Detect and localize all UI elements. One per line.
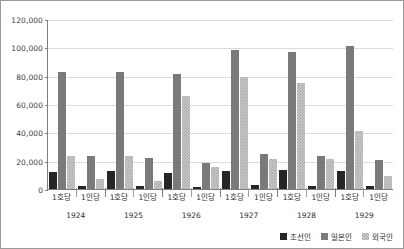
y-axis-labels: 120,000100,00080,00060,00040,00020,0000	[1, 20, 43, 190]
y-axis-tick-label: 40,000	[1, 129, 43, 138]
bar	[375, 160, 383, 189]
y-axis-tick-label: 0	[1, 186, 43, 195]
x-axis-sub-label: 1인당	[249, 191, 278, 205]
bar	[49, 172, 57, 189]
x-axis-sub-label: 1호당	[278, 191, 307, 205]
bar	[260, 154, 268, 189]
legend-label: 일본인	[331, 231, 352, 242]
x-axis-year-block: 1호당1인당1927	[220, 191, 278, 223]
legend-label: 외국인	[372, 231, 393, 242]
bar	[136, 186, 144, 189]
x-axis-year-block: 1호당1인당1929	[335, 191, 393, 223]
legend-item[interactable]: 외국인	[362, 231, 393, 242]
year-group	[163, 20, 221, 189]
bar	[96, 179, 104, 189]
bar	[337, 171, 345, 189]
x-axis-sub-label: 1인당	[134, 191, 163, 205]
bar	[87, 156, 95, 189]
bar	[78, 186, 86, 189]
bar	[211, 167, 219, 189]
x-axis-sub-row: 1호당1인당	[220, 191, 278, 205]
sub-group	[307, 20, 336, 189]
x-axis-sub-label: 1인당	[76, 191, 105, 205]
bar	[116, 72, 124, 189]
sub-group	[163, 20, 192, 189]
x-axis-year-label: 1926	[162, 205, 220, 223]
x-axis-year-label: 1929	[335, 205, 393, 223]
bar	[355, 131, 363, 189]
x-axis-year-label: 1928	[278, 205, 336, 223]
x-axis-sub-row: 1호당1인당	[335, 191, 393, 205]
legend-label: 조선인	[290, 231, 311, 242]
x-axis-sub-label: 1인당	[307, 191, 336, 205]
bar	[288, 52, 296, 189]
bar	[297, 83, 305, 189]
y-axis-tick-label: 100,000	[1, 44, 43, 53]
bar	[164, 173, 172, 189]
x-axis-year-block: 1호당1인당1924	[47, 191, 105, 223]
bar	[384, 176, 392, 189]
legend-swatch-icon	[321, 233, 328, 240]
year-group	[106, 20, 164, 189]
x-axis-sub-row: 1호당1인당	[278, 191, 336, 205]
y-axis-tick-label: 80,000	[1, 72, 43, 81]
x-axis-year-block: 1호당1인당1925	[105, 191, 163, 223]
year-group	[278, 20, 336, 189]
x-axis-year-block: 1호당1인당1928	[278, 191, 336, 223]
plot-area	[47, 20, 393, 190]
bar	[308, 186, 316, 189]
x-axis-sub-label: 1호당	[105, 191, 134, 205]
legend-item[interactable]: 일본인	[321, 231, 352, 242]
bar	[173, 74, 181, 189]
x-axis-year-label: 1927	[220, 205, 278, 223]
y-axis-tick-label: 60,000	[1, 101, 43, 110]
bar	[67, 156, 75, 189]
bar	[269, 159, 277, 189]
bar	[145, 158, 153, 189]
chart-container: 120,000100,00080,00060,00040,00020,0000 …	[0, 0, 404, 249]
x-axis-sub-label: 1인당	[364, 191, 393, 205]
bar	[125, 156, 133, 189]
x-axis-sub-label: 1호당	[162, 191, 191, 205]
bar	[107, 171, 115, 189]
x-axis-sub-row: 1호당1인당	[47, 191, 105, 205]
bar	[193, 187, 201, 189]
bar	[251, 185, 259, 189]
chart-legend: 조선인일본인외국인	[1, 231, 393, 242]
sub-group	[278, 20, 307, 189]
x-axis-sub-label: 1호당	[335, 191, 364, 205]
sub-group	[364, 20, 393, 189]
x-axis-sub-row: 1호당1인당	[105, 191, 163, 205]
sub-group	[249, 20, 278, 189]
x-axis-sub-label: 1인당	[191, 191, 220, 205]
legend-item[interactable]: 조선인	[280, 231, 311, 242]
year-group	[221, 20, 279, 189]
sub-group	[106, 20, 135, 189]
y-axis-tick-label: 120,000	[1, 16, 43, 25]
year-group	[48, 20, 106, 189]
y-axis-tick-label: 20,000	[1, 157, 43, 166]
bar	[346, 46, 354, 189]
bar	[366, 186, 374, 189]
bar	[154, 181, 162, 190]
x-axis-sub-label: 1호당	[220, 191, 249, 205]
legend-swatch-icon	[362, 233, 369, 240]
x-axis-year-block: 1호당1인당1926	[162, 191, 220, 223]
x-axis-year-label: 1924	[47, 205, 105, 223]
sub-group	[134, 20, 163, 189]
x-axis-labels: 1호당1인당19241호당1인당19251호당1인당19261호당1인당1927…	[47, 191, 393, 223]
sub-group	[77, 20, 106, 189]
bar	[317, 156, 325, 189]
bar	[231, 50, 239, 189]
bar	[326, 159, 334, 189]
x-axis-sub-label: 1호당	[47, 191, 76, 205]
x-axis-year-label: 1925	[105, 205, 163, 223]
bar	[182, 96, 190, 190]
year-group	[336, 20, 394, 189]
sub-group	[48, 20, 77, 189]
bar	[240, 77, 248, 189]
sub-group	[221, 20, 250, 189]
sub-group	[336, 20, 365, 189]
bar-groups	[48, 20, 393, 189]
sub-group	[192, 20, 221, 189]
